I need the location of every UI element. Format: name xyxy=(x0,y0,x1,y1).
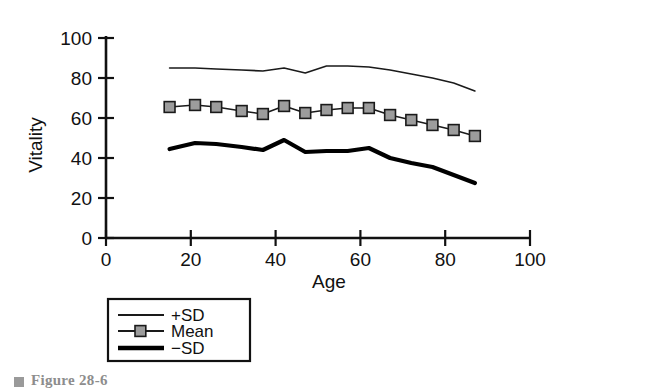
data-point-marker xyxy=(164,102,175,113)
data-point-marker xyxy=(300,108,311,119)
y-tick-label: 100 xyxy=(60,28,92,49)
data-point-marker xyxy=(236,106,247,117)
x-tick-label: 20 xyxy=(180,249,201,270)
caption-bullet-icon xyxy=(14,377,24,387)
data-point-marker xyxy=(427,120,438,131)
x-tick-label: 40 xyxy=(265,249,286,270)
vitality-vs-age-chart: 020406080100 020406080100 Age Vitality +… xyxy=(0,0,659,390)
y-tick-label: 40 xyxy=(71,148,92,169)
y-tick-label: 80 xyxy=(71,68,92,89)
data-point-marker xyxy=(448,125,459,136)
x-tick-label: 60 xyxy=(350,249,371,270)
series-sd xyxy=(170,140,475,183)
y-axis-title: Vitality xyxy=(25,117,46,173)
series-sd xyxy=(170,66,475,91)
x-axis-tick-labels: 020406080100 xyxy=(101,249,546,270)
x-tick-label: 0 xyxy=(101,249,112,270)
y-axis-tick-labels: 020406080100 xyxy=(60,28,92,249)
x-tick-label: 80 xyxy=(435,249,456,270)
legend-swatch-marker xyxy=(135,326,146,337)
data-point-marker xyxy=(257,109,268,120)
legend-label: −SD xyxy=(171,339,205,358)
figure-caption: Figure 28-6 xyxy=(31,372,108,389)
data-point-marker xyxy=(190,100,201,111)
y-tick-label: 60 xyxy=(71,108,92,129)
x-axis-title: Age xyxy=(312,271,346,292)
data-point-marker xyxy=(385,110,396,121)
data-point-marker xyxy=(279,101,290,112)
y-tick-label: 20 xyxy=(71,188,92,209)
data-point-marker xyxy=(321,105,332,116)
chart-series-layer xyxy=(164,66,480,183)
series-line xyxy=(170,66,475,91)
data-point-marker xyxy=(363,103,374,114)
data-point-marker xyxy=(469,131,480,142)
data-point-marker xyxy=(211,102,222,113)
data-point-marker xyxy=(342,103,353,114)
x-tick-label: 100 xyxy=(514,249,546,270)
series-line xyxy=(170,140,475,183)
chart-legend: +SDMean−SD xyxy=(108,299,250,361)
series-mean xyxy=(164,100,480,142)
chart-axes xyxy=(105,36,531,238)
figure-container: 020406080100 020406080100 Age Vitality +… xyxy=(0,0,659,390)
data-point-marker xyxy=(406,115,417,126)
y-tick-label: 0 xyxy=(81,228,92,249)
